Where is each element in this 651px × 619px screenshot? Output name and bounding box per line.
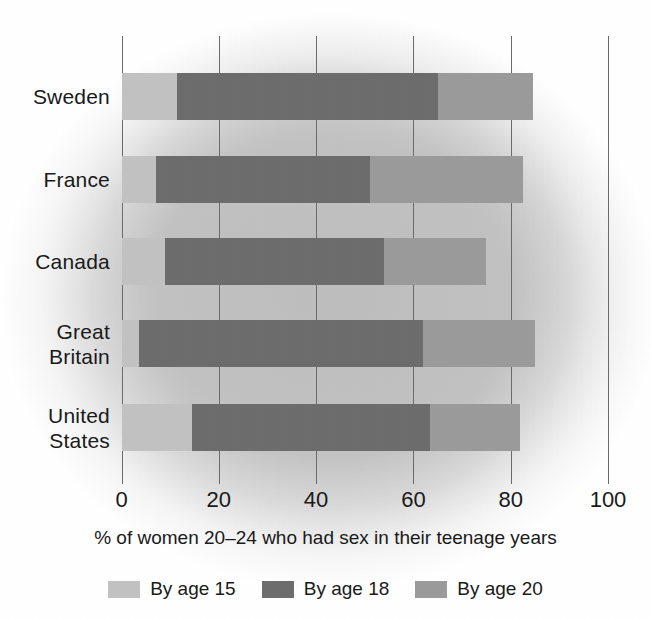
bar-segment-by-age-20 bbox=[384, 238, 486, 285]
category-label-canada: Canada bbox=[0, 249, 110, 274]
x-tick-label-80: 80 bbox=[471, 487, 551, 513]
bar-segment-by-age-15 bbox=[122, 238, 166, 285]
bar-segment-by-age-15 bbox=[122, 156, 156, 203]
legend-label-by-age-20: By age 20 bbox=[457, 578, 543, 600]
category-label-sweden: Sweden bbox=[0, 84, 110, 109]
legend-item-by-age-20[interactable]: By age 20 bbox=[415, 578, 543, 600]
bar-sweden bbox=[122, 73, 533, 120]
bar-segment-by-age-18 bbox=[139, 320, 424, 367]
x-tick-label-40: 40 bbox=[276, 487, 356, 513]
chart-figure: 020406080100SwedenFranceCanadaGreat Brit… bbox=[0, 0, 651, 619]
bar-segment-by-age-15 bbox=[122, 404, 193, 451]
legend-swatch-by-age-20 bbox=[415, 581, 447, 598]
chart-legend: By age 15 By age 18 By age 20 bbox=[0, 578, 651, 600]
bar-segment-by-age-20 bbox=[438, 73, 533, 120]
legend-swatch-by-age-18 bbox=[262, 581, 294, 598]
bar-segment-by-age-15 bbox=[122, 73, 178, 120]
category-label-great-britain: Great Britain bbox=[0, 319, 110, 369]
bar-segment-by-age-18 bbox=[192, 404, 430, 451]
x-tick-label-60: 60 bbox=[373, 487, 453, 513]
legend-item-by-age-15[interactable]: By age 15 bbox=[108, 578, 236, 600]
bar-canada bbox=[122, 238, 487, 285]
legend-swatch-by-age-15 bbox=[108, 581, 140, 598]
gridline-100 bbox=[608, 36, 609, 484]
x-axis-title: % of women 20–24 who had sex in their te… bbox=[0, 527, 651, 549]
bar-segment-by-age-15 bbox=[122, 320, 139, 367]
category-label-france: France bbox=[0, 167, 110, 192]
legend-item-by-age-18[interactable]: By age 18 bbox=[262, 578, 390, 600]
x-tick-label-20: 20 bbox=[179, 487, 259, 513]
category-label-united-states: United States bbox=[0, 403, 110, 453]
x-tick-label-0: 0 bbox=[82, 487, 162, 513]
bar-segment-by-age-20 bbox=[423, 320, 535, 367]
bar-segment-by-age-18 bbox=[177, 73, 437, 120]
bar-great-britain bbox=[122, 320, 536, 367]
legend-label-by-age-18: By age 18 bbox=[304, 578, 390, 600]
bar-segment-by-age-18 bbox=[156, 156, 370, 203]
bar-segment-by-age-20 bbox=[430, 404, 520, 451]
bar-segment-by-age-20 bbox=[370, 156, 523, 203]
x-tick-label-100: 100 bbox=[568, 487, 648, 513]
bar-france bbox=[122, 156, 523, 203]
bar-united-states bbox=[122, 404, 521, 451]
legend-label-by-age-15: By age 15 bbox=[150, 578, 236, 600]
bar-segment-by-age-18 bbox=[165, 238, 384, 285]
